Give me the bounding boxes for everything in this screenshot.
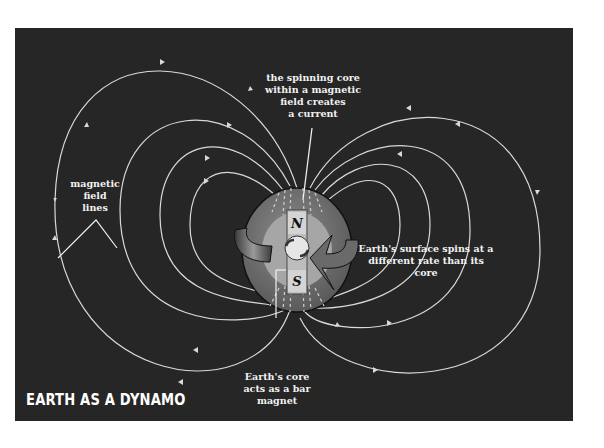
- label-spinning-core: the spinning core within a magnetic fiel…: [262, 72, 364, 120]
- south-pole-label: S: [292, 274, 301, 289]
- label-field-lines: magnetic field lines: [62, 178, 128, 214]
- label-core-magnet: Earth's core acts as a bar magnet: [234, 371, 320, 407]
- leader-field-lines: [58, 220, 117, 258]
- diagram-title: EARTH AS A DYNAMO: [26, 390, 186, 409]
- north-pole-label: N: [290, 216, 304, 231]
- label-surface-spins: Earth's surface spins at a different rat…: [356, 243, 496, 279]
- earth-globe: N S: [235, 188, 359, 312]
